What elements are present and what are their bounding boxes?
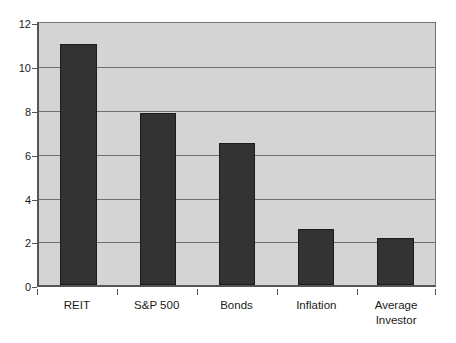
plot-area [37, 22, 436, 287]
bar-inflation[interactable] [298, 229, 334, 285]
bars-layer [39, 23, 435, 285]
x-tick-mark-2 [197, 289, 198, 295]
x-tick-mark-4 [357, 289, 358, 295]
y-tick-label-2: 2 [25, 238, 31, 249]
x-label-average-investor: Average Investor [356, 296, 436, 342]
bar-bonds[interactable] [219, 143, 255, 285]
bar-chart: 12 10 8 6 4 2 0 [0, 0, 456, 343]
bar-slot-inflation [277, 23, 356, 285]
bar-reit[interactable] [60, 44, 96, 285]
x-label-bonds: Bonds [197, 296, 277, 342]
bar-average-investor[interactable] [377, 238, 413, 285]
x-label-reit: REIT [37, 296, 117, 342]
y-axis: 12 10 8 6 4 2 0 [0, 0, 31, 343]
bar-slot-reit [39, 23, 118, 285]
x-axis-labels: REIT S&P 500 Bonds Inflation Average Inv… [37, 296, 436, 342]
y-tick-label-10: 10 [19, 63, 31, 74]
bar-sp500[interactable] [140, 113, 176, 285]
y-tick-label-4: 4 [25, 195, 31, 206]
x-tick-mark-1 [117, 289, 118, 295]
x-label-inflation: Inflation [276, 296, 356, 342]
bar-slot-sp500 [118, 23, 197, 285]
x-tick-mark-5 [435, 289, 436, 295]
y-tick-label-6: 6 [25, 151, 31, 162]
y-tick-label-12: 12 [19, 19, 31, 30]
bar-slot-bonds [197, 23, 276, 285]
y-tick-label-0: 0 [25, 282, 31, 293]
y-tick-label-8: 8 [25, 107, 31, 118]
x-label-sp500: S&P 500 [117, 296, 197, 342]
x-tick-mark-0 [37, 289, 38, 295]
y-tick-mark-0 [32, 287, 37, 288]
x-tick-mark-3 [277, 289, 278, 295]
bar-slot-average-investor [356, 23, 435, 285]
x-axis-ticks [37, 289, 436, 295]
